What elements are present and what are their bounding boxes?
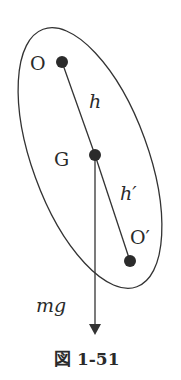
physical-pendulum-diagram: O h G h′ O′ mg 図 1-51 (0, 0, 181, 380)
label-h-prime: h′ (120, 182, 137, 204)
pivot-point-O (56, 56, 68, 68)
label-G: G (54, 148, 69, 170)
figure-caption: 図 1-51 (54, 349, 119, 369)
gravity-arrow-head (89, 324, 101, 335)
segment-h-prime (95, 155, 130, 261)
center-of-mass-G (89, 149, 101, 161)
label-mg: mg (36, 294, 66, 316)
label-O-prime: O′ (130, 226, 150, 248)
point-O-prime (124, 255, 136, 267)
label-O: O (30, 52, 46, 74)
label-h: h (89, 90, 101, 112)
